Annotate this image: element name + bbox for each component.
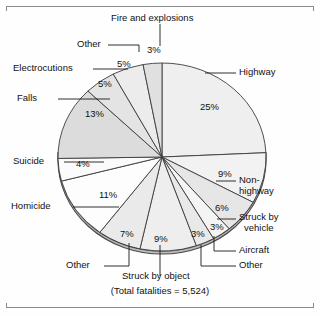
callout-falls: Falls [17, 93, 37, 104]
slice-percent-falls: 13% [85, 108, 104, 119]
figure-container: 3% 5% 5% 13% 4% 11% 7% 9% 3% 3% 6% 9% 25… [0, 0, 320, 316]
slice-percent-other-right: 3% [191, 228, 205, 239]
slice-percent-aircraft: 3% [210, 221, 224, 232]
slice-percent-highway: 25% [200, 101, 219, 112]
callout-struck-by-object: Struck by object [122, 271, 190, 282]
slice-percent-other-bottom: 7% [120, 228, 134, 239]
callout-other-bottom-left: Other [66, 260, 90, 271]
callout-other-top: Other [77, 39, 101, 50]
slice-percent-other-top: 5% [117, 58, 131, 69]
slice-percent-suicide: 4% [76, 158, 90, 169]
slice-percent-non-highway: 9% [218, 168, 232, 179]
slice-percent-struck-by-vehicle: 6% [215, 202, 229, 213]
callout-highway: Highway [239, 67, 275, 78]
callout-homicide: Homicide [11, 201, 51, 212]
callout-struck-by-vehicle-line2: vehicle [244, 223, 274, 234]
pie-slices-group [58, 63, 266, 251]
callout-other-bottom-right: Other [239, 260, 263, 271]
callout-aircraft: Aircraft [239, 245, 269, 256]
slice-percent-fire: 3% [147, 44, 161, 55]
slice-percent-struck-by-object: 9% [154, 233, 168, 244]
callout-fire-and-explosions: Fire and explosions [111, 13, 193, 24]
callout-electrocutions: Electrocutions [13, 63, 73, 74]
callout-suicide: Suicide [13, 156, 44, 167]
slice-percent-electrocutions: 5% [98, 78, 112, 89]
callout-non-highway-line2: highway [239, 186, 274, 197]
slice-percent-homicide: 11% [99, 189, 117, 200]
total-fatalities-caption: (Total fatalities = 5,524) [0, 285, 320, 296]
